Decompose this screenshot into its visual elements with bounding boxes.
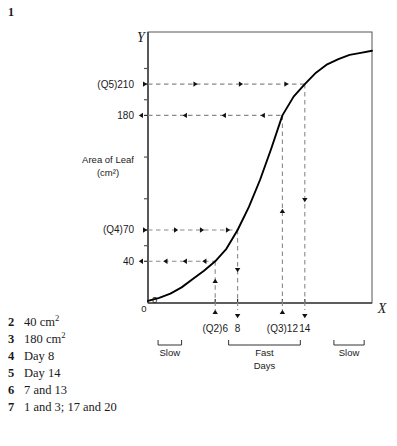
h-trace-arrow [183,113,187,118]
h-trace-arrow [200,227,204,232]
h-trace-arrow [183,259,187,264]
y-tick-label: 40 [123,256,135,267]
h-trace-axis-arrow [139,113,143,118]
h-trace-arrow [222,113,226,118]
h-trace-arrow [239,81,243,86]
answer-superscript: 2 [55,313,59,323]
phase-bracket [229,340,301,345]
answer-item: 5Day 14 [8,367,188,380]
v-trace-axis-arrow [280,310,285,314]
answer-item: 4Day 8 [8,350,188,363]
h-trace-axis-arrow [143,81,147,86]
h-trace-arrow [261,113,265,118]
v-trace-arrow [280,209,285,213]
answer-text: 7 and 13 [24,384,67,397]
answer-text: 40 cm2 [24,316,59,329]
x-axis-title: Days [254,360,276,371]
answer-list: 240 cm23180 cm24Day 85Day 1467 and 1371 … [8,316,188,418]
h-trace-axis-arrow [139,259,143,264]
answer-superscript: 2 [61,330,65,340]
answer-item: 3180 cm2 [8,333,188,346]
x-tick-label: 14 [299,323,311,334]
answer-number: 7 [8,401,24,414]
y-tick-label: (Q4)70 [103,224,135,235]
y-tick-label: 180 [117,110,134,121]
y-axis-units: (cm²) [97,167,119,178]
answer-number: 4 [8,350,24,363]
origin-label-y: 0 [141,303,146,314]
answer-number: 2 [8,316,24,329]
answer-number: 3 [8,333,24,346]
v-trace-arrow [213,279,218,283]
answer-text: Day 14 [24,367,60,380]
v-trace-axis-arrow [302,314,307,318]
answer-text: Day 8 [24,350,54,363]
answer-item: 71 and 3; 17 and 20 [8,401,188,414]
figure-page: 1 YX0040(Q4)70180(Q5)210Area of Leaf(cm²… [0,0,397,446]
growth-curve [148,51,372,301]
h-trace-arrow [163,259,167,264]
x-tick-label: (Q2)6 [202,323,228,334]
v-trace-axis-arrow [213,310,218,314]
y-axis-title: Area of Leaf [82,154,134,165]
answer-number: 6 [8,384,24,397]
v-trace-arrow [235,268,240,272]
x-tick-label: 8 [235,323,241,334]
h-trace-arrow [193,81,197,86]
h-trace-arrow [174,227,178,232]
phase-bracket-label: Slow [339,347,360,358]
x-tick-label: (Q3)12 [267,323,299,334]
phase-bracket [334,340,364,345]
h-trace-arrow [226,227,230,232]
answer-text: 180 cm2 [24,333,65,346]
v-trace-arrow [302,198,307,202]
x-axis-name: X [377,301,387,316]
h-trace-arrow [202,259,206,264]
v-trace-axis-arrow [235,314,240,318]
y-tick-label: (Q5)210 [97,79,134,90]
answer-item: 67 and 13 [8,384,188,397]
y-axis-name: Y [137,30,147,45]
plot-frame [148,32,372,303]
answer-number: 5 [8,367,24,380]
h-trace-axis-arrow [143,227,147,232]
h-trace-arrow [284,81,288,86]
answer-item: 240 cm2 [8,316,188,329]
answer-text: 1 and 3; 17 and 20 [24,401,117,414]
phase-bracket-label: Fast [255,347,274,358]
